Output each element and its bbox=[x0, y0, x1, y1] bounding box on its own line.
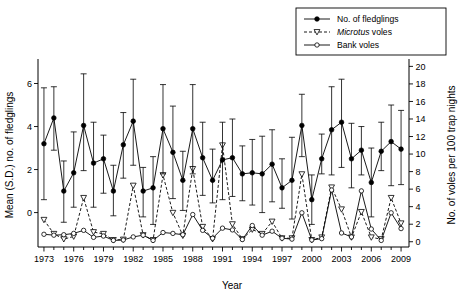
data-point-marker bbox=[151, 238, 155, 242]
data-point-marker bbox=[200, 155, 205, 160]
data-point-marker bbox=[210, 178, 215, 183]
data-point-marker bbox=[270, 162, 275, 167]
data-point-marker bbox=[349, 235, 353, 239]
y-axis-tick-label: 4 bbox=[27, 122, 32, 132]
data-point-marker bbox=[399, 147, 404, 152]
data-point-marker bbox=[359, 189, 363, 193]
data-point-marker bbox=[339, 120, 344, 125]
data-point-marker bbox=[171, 231, 175, 235]
y-axis-tick-label: 2 bbox=[27, 165, 32, 175]
data-point-marker bbox=[389, 211, 393, 215]
data-point-marker bbox=[81, 228, 85, 232]
data-point-marker bbox=[61, 189, 66, 194]
y2-axis-tick-label: 2 bbox=[416, 219, 421, 229]
legend-label: Bank voles bbox=[337, 40, 379, 50]
y2-axis-tick-label: 6 bbox=[416, 184, 421, 194]
data-point-marker bbox=[72, 231, 76, 235]
data-point-marker bbox=[111, 238, 115, 242]
y2-axis-tick-label: 18 bbox=[416, 79, 426, 89]
data-point-marker bbox=[141, 189, 146, 194]
x-axis-tick-label: 2003 bbox=[332, 254, 352, 264]
data-point-marker bbox=[52, 233, 56, 237]
data-point-marker bbox=[329, 127, 334, 132]
y2-axis-tick-label: 12 bbox=[416, 132, 426, 142]
data-point-marker bbox=[91, 161, 96, 166]
y2-axis-tick-label: 14 bbox=[416, 114, 426, 124]
data-point-marker bbox=[151, 186, 156, 191]
data-point-marker bbox=[379, 238, 383, 242]
data-point-marker bbox=[62, 233, 66, 237]
data-point-marker bbox=[91, 235, 95, 239]
data-point-marker bbox=[240, 172, 245, 177]
data-point-marker bbox=[369, 180, 374, 185]
data-point-marker bbox=[250, 170, 255, 175]
x-axis-tick-label: 2006 bbox=[361, 254, 381, 264]
data-point-marker bbox=[131, 119, 136, 124]
data-point-marker bbox=[81, 123, 86, 128]
y2-axis-tick-label: 20 bbox=[416, 62, 426, 72]
data-point-marker bbox=[220, 226, 224, 230]
x-axis-tick-label: 1997 bbox=[272, 254, 292, 264]
data-point-marker bbox=[42, 232, 46, 236]
data-point-marker bbox=[121, 143, 126, 148]
x-axis-tick-label: 1988 bbox=[183, 254, 203, 264]
data-point-marker bbox=[161, 126, 166, 131]
data-point-marker bbox=[71, 170, 76, 175]
data-point-marker bbox=[181, 178, 186, 183]
y-axis-title: Mean (S.D.) no. of fledglings bbox=[4, 92, 15, 219]
legend-label: Microtus voles bbox=[337, 27, 392, 37]
data-point-marker bbox=[171, 150, 176, 155]
data-point-marker bbox=[320, 236, 324, 240]
data-point-marker bbox=[101, 157, 106, 162]
data-point-marker bbox=[270, 229, 274, 233]
data-point-marker bbox=[319, 157, 324, 162]
x-axis-tick-label: 1985 bbox=[153, 254, 173, 264]
data-point-marker bbox=[369, 227, 373, 231]
y2-axis-title: No. of voles per 100 trap nights bbox=[446, 86, 457, 225]
data-point-marker bbox=[52, 116, 57, 121]
data-point-marker bbox=[290, 237, 294, 241]
chart-legend: No. of fledglingsMicrotus volesBank vole… bbox=[296, 8, 446, 55]
data-point-marker bbox=[181, 233, 185, 237]
data-point-marker bbox=[290, 178, 295, 183]
data-point-marker bbox=[359, 148, 364, 153]
data-point-marker bbox=[280, 236, 284, 240]
x-axis-tick-label: 1973 bbox=[34, 254, 54, 264]
x-axis-tick-label: 1982 bbox=[123, 254, 143, 264]
data-point-marker bbox=[220, 158, 225, 163]
vole-fledgling-timeseries-chart: 0246024681012141618201973197619791982198… bbox=[0, 0, 465, 295]
data-point-marker bbox=[399, 226, 403, 230]
legend-label: No. of fledglings bbox=[337, 14, 399, 24]
data-point-marker bbox=[121, 238, 125, 242]
data-point-marker bbox=[210, 236, 214, 240]
data-point-marker bbox=[200, 228, 204, 232]
data-point-marker bbox=[111, 189, 116, 194]
data-point-marker bbox=[349, 157, 354, 162]
data-point-marker bbox=[230, 155, 235, 160]
data-point-marker bbox=[339, 231, 343, 235]
data-point-marker bbox=[42, 141, 47, 146]
chart-figure: 0246024681012141618201973197619791982198… bbox=[0, 0, 465, 295]
data-point-marker bbox=[190, 126, 195, 131]
data-point-marker bbox=[300, 123, 305, 128]
data-point-marker bbox=[230, 228, 234, 232]
data-point-marker bbox=[101, 234, 105, 238]
data-point-marker bbox=[161, 230, 165, 234]
y2-axis-tick-label: 4 bbox=[416, 202, 421, 212]
x-axis-tick-label: 1976 bbox=[64, 254, 84, 264]
legend-marker bbox=[315, 43, 319, 47]
data-point-marker bbox=[379, 149, 384, 154]
data-point-marker bbox=[141, 233, 145, 237]
x-axis-tick-label: 2009 bbox=[391, 254, 411, 264]
data-point-marker bbox=[300, 211, 304, 215]
data-point-marker bbox=[309, 197, 314, 202]
data-point-marker bbox=[280, 186, 285, 191]
x-axis-title: Year bbox=[222, 280, 243, 291]
y2-axis-tick-label: 10 bbox=[416, 149, 426, 159]
x-axis-tick-label: 2000 bbox=[302, 254, 322, 264]
data-point-marker bbox=[260, 172, 265, 177]
data-point-marker bbox=[191, 212, 195, 216]
y2-axis-tick-label: 0 bbox=[416, 237, 421, 247]
data-point-marker bbox=[131, 235, 135, 239]
y-axis-tick-label: 6 bbox=[27, 79, 32, 89]
